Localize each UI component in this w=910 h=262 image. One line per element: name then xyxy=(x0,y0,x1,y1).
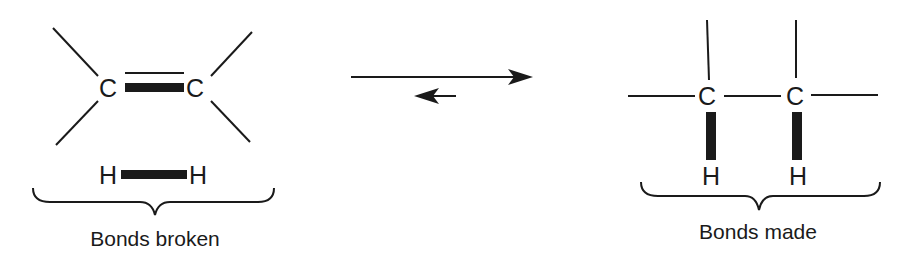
carbon-atom-left: C xyxy=(99,74,117,102)
carbon-atom-left-product: C xyxy=(698,82,716,110)
substituent-bond-up-left xyxy=(707,20,709,80)
h-h-bond-broken xyxy=(121,170,187,179)
hydrogen-atom-right: H xyxy=(189,161,207,189)
c-h-bond-made-left xyxy=(706,112,716,160)
hydrogenation-diagram: C C H H Bonds broken C C H H Bonds made xyxy=(0,0,910,262)
product-alkane xyxy=(628,20,878,96)
brace-bonds-broken xyxy=(33,188,274,215)
hydrogen-atom-right-product: H xyxy=(789,162,807,190)
substituent-bond-top-left xyxy=(53,28,98,76)
c-h-bond-made-right xyxy=(792,112,802,160)
label-bonds-broken: Bonds broken xyxy=(90,227,220,250)
brace-bonds-made xyxy=(641,182,880,210)
substituent-bond-bottom-right xyxy=(211,101,250,142)
equilibrium-arrows xyxy=(351,69,533,104)
carbon-atom-right: C xyxy=(186,74,204,102)
substituent-bond-bottom-left xyxy=(56,101,98,145)
substituent-bond-top-right xyxy=(211,32,252,76)
hydrogen-atom-left-product: H xyxy=(702,162,720,190)
label-bonds-made: Bonds made xyxy=(699,220,817,243)
pi-bond-broken xyxy=(125,83,184,92)
hydrogen-atom-left: H xyxy=(99,161,117,189)
carbon-atom-right-product: C xyxy=(786,82,804,110)
